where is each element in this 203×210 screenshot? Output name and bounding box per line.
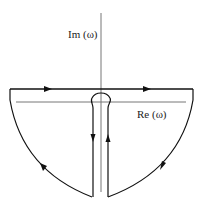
real-axis-label: Re (ω) [137,109,167,120]
contour-diagram [0,0,203,210]
arrow-right-icon [143,86,151,92]
arrow-down-left-icon [160,161,166,170]
arrow-up-icon [106,134,111,142]
contour-left-arc [10,89,92,197]
imaginary-axis-label: Im (ω) [68,29,98,40]
contour-right-arc [108,89,193,197]
arrow-down-icon [91,134,96,142]
arrow-right-icon [44,86,52,92]
